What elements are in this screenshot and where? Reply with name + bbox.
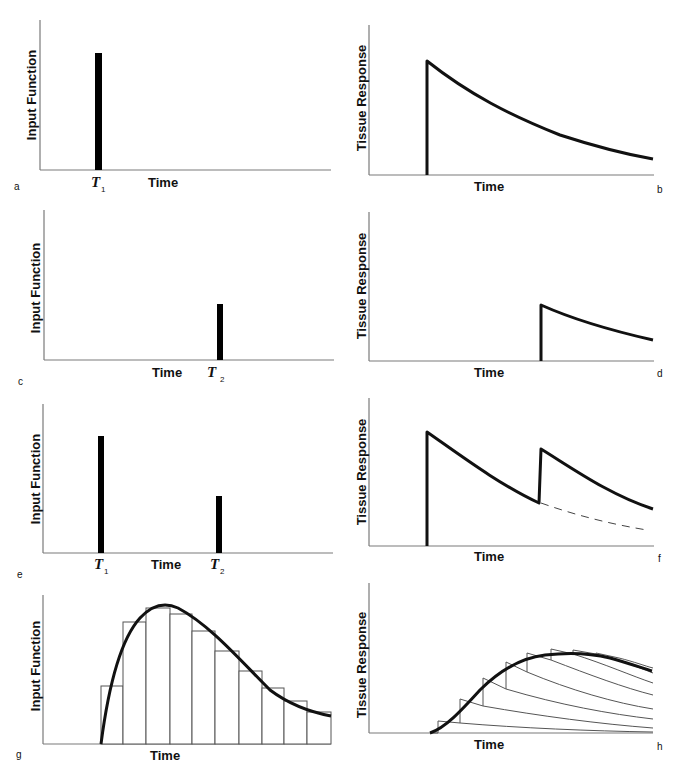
impulse-rect <box>170 614 192 744</box>
panel-letter-g: g <box>16 749 22 760</box>
panel-letter-h: h <box>657 741 663 752</box>
x-axis-label: Time <box>152 365 182 380</box>
x-axis-label: Time <box>151 557 181 572</box>
impulse-bar-t2 <box>217 304 223 360</box>
impulse-rect <box>192 631 215 744</box>
y-axis-label: Input Function <box>28 434 43 524</box>
y-axis-label: Tissue Response <box>354 612 369 719</box>
summed-response-curve <box>427 432 653 546</box>
panel-letter-d: d <box>657 368 663 379</box>
impulse-rect <box>146 608 170 744</box>
y-axis-label: Tissue Response <box>354 419 369 526</box>
marker-t-subscript: 1 <box>101 185 106 194</box>
x-axis-label: Time <box>474 179 504 194</box>
marker-t2-subscript: 2 <box>220 567 225 576</box>
panel-letter-a: a <box>14 181 20 192</box>
impulse-response-curve <box>541 305 653 361</box>
x-axis-label: Time <box>474 737 504 752</box>
panel-b: Tissue Response Time b <box>354 25 663 195</box>
panel-a: Input Function Time T 1 a <box>14 20 331 194</box>
impulse-rect <box>239 671 262 744</box>
y-axis-label: Input Function <box>24 50 39 140</box>
figure-canvas: Input Function Time T 1 a Tissue Respons… <box>0 0 679 777</box>
panel-letter-f: f <box>658 553 661 564</box>
marker-t1-subscript: 1 <box>104 567 109 576</box>
marker-t-label: T <box>207 364 217 380</box>
x-axis-label: Time <box>474 549 504 564</box>
impulse-bar-t2 <box>216 496 222 553</box>
x-axis-label: Time <box>474 365 504 380</box>
x-axis-label: Time <box>150 748 180 763</box>
decay-continuation-dashed <box>541 503 647 530</box>
rectangular-impulse-bars <box>101 608 331 744</box>
marker-t-subscript: 2 <box>220 375 225 384</box>
panel-h: Tissue Response Time h <box>354 583 663 752</box>
marker-t2-label: T <box>210 556 220 572</box>
impulse-bar-t1 <box>95 53 102 170</box>
x-axis-label: Time <box>148 175 178 190</box>
panel-letter-e: e <box>17 569 23 580</box>
summed-response-curve <box>430 653 652 733</box>
marker-t1-label: T <box>94 556 104 572</box>
panel-e: Input Function Time T 1 T 2 e <box>17 404 333 580</box>
marker-t-label: T <box>91 174 101 190</box>
y-axis-label: Input Function <box>28 621 43 711</box>
panel-c: Input Function Time T 2 c <box>18 210 334 387</box>
panel-d: Tissue Response Time d <box>354 212 663 380</box>
y-axis-label: Input Function <box>28 243 43 333</box>
panel-f: Tissue Response Time f <box>354 398 661 564</box>
impulse-bar-t1 <box>98 436 104 553</box>
impulse-rect <box>215 651 239 744</box>
panel-letter-c: c <box>18 376 23 387</box>
panel-letter-b: b <box>657 184 663 195</box>
y-axis-label: Tissue Response <box>354 45 369 152</box>
impulse-response-curve <box>427 61 653 175</box>
y-axis-label: Tissue Response <box>354 233 369 340</box>
panel-g: Input Function Time g <box>16 595 331 763</box>
